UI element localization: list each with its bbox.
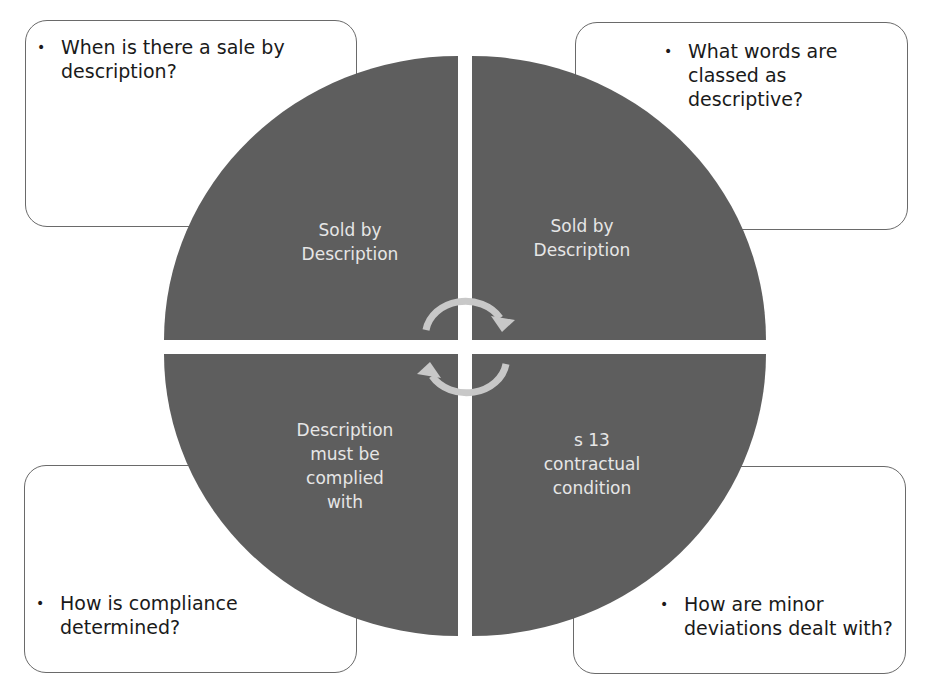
quadrant-label-bottom-right: s 13 contractual condition xyxy=(502,428,682,500)
quadrant-label-top-right: Sold by Description xyxy=(492,214,672,262)
label-line: s 13 xyxy=(574,430,610,450)
label-line: condition xyxy=(553,478,632,498)
quadrant-label-bottom-left: Description must be complied with xyxy=(255,418,435,514)
label-line: Description xyxy=(297,420,394,440)
cycle-arrows-icon xyxy=(417,301,515,393)
label-line: with xyxy=(327,492,363,512)
quadrant-label-top-left: Sold by Description xyxy=(260,218,440,266)
label-line: complied xyxy=(306,468,384,488)
label-line: Sold by xyxy=(319,220,382,240)
quadrant-circle xyxy=(0,0,927,696)
label-line: contractual xyxy=(544,454,641,474)
label-line: Sold by xyxy=(551,216,614,236)
quadrant-top-left xyxy=(164,56,458,340)
quadrant-top-right xyxy=(472,56,766,340)
label-line: Description xyxy=(534,240,631,260)
label-line: Description xyxy=(302,244,399,264)
label-line: must be xyxy=(310,444,380,464)
